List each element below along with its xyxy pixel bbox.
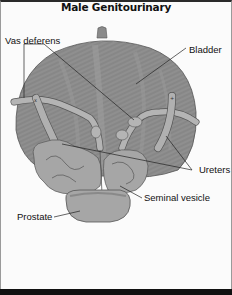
prostate-shape [66, 190, 131, 222]
label-ureters: Ureters [199, 165, 230, 175]
label-vas-deferens: Vas deferens [5, 36, 60, 46]
label-prostate: Prostate [17, 212, 52, 222]
svg-text:+: + [170, 95, 174, 101]
label-seminal-vesicle: Seminal vesicle [144, 193, 210, 203]
svg-text:x: x [34, 97, 37, 103]
bottom-border [0, 289, 232, 295]
urachus [97, 27, 107, 39]
label-bladder: Bladder [189, 45, 222, 55]
